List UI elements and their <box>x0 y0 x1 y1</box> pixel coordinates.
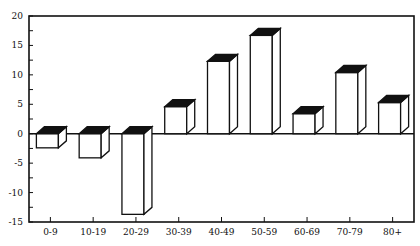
bar-chart: -15-10-5051015200-910-1920-2930-3940-495… <box>0 0 420 246</box>
x-tick-label: 30-39 <box>166 227 192 237</box>
y-tick-label: -15 <box>9 217 24 227</box>
x-tick-label: 50-59 <box>251 227 277 237</box>
bar-20-29 <box>122 127 152 215</box>
y-tick-label: -10 <box>9 188 24 198</box>
bar-40-49 <box>208 54 238 133</box>
bar-80+ <box>379 96 409 134</box>
x-tick-label: 60-69 <box>294 227 320 237</box>
x-tick-label: 0-9 <box>43 227 58 237</box>
y-tick-label: 5 <box>17 99 23 109</box>
bar-70-79 <box>336 66 366 134</box>
bar-60-69 <box>293 107 323 134</box>
bar-30-39 <box>165 100 195 134</box>
x-tick-label: 20-29 <box>123 227 149 237</box>
x-tick-label: 70-79 <box>337 227 363 237</box>
x-tick-label: 80+ <box>383 227 402 237</box>
y-tick-label: 15 <box>12 40 24 50</box>
bar-50-59 <box>250 28 280 133</box>
bars <box>36 28 408 214</box>
bar-0-9 <box>36 127 66 148</box>
y-tick-label: 20 <box>12 11 24 21</box>
bar-10-19 <box>79 127 109 158</box>
x-tick-label: 10-19 <box>80 227 106 237</box>
y-tick-label: 0 <box>17 129 23 139</box>
y-tick-label: 10 <box>12 70 24 80</box>
y-tick-label: -5 <box>14 158 23 168</box>
x-tick-label: 40-49 <box>209 227 235 237</box>
